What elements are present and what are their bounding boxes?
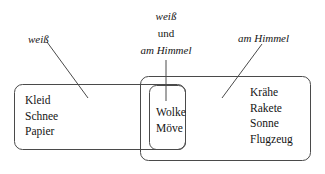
list-item: Kleid: [25, 93, 58, 109]
member-list-am-himmel-only: Krähe Rakete Sonne Flugzeug: [250, 85, 293, 147]
intersection-label-conjunction: und: [126, 25, 206, 42]
leader-line-weiss: [47, 42, 88, 98]
list-item: Schnee: [25, 109, 58, 125]
list-item: Krähe: [250, 85, 293, 101]
list-item: Flugzeug: [250, 132, 293, 148]
set-label-weiss: weiß: [28, 33, 49, 45]
intersection-label-line-2: am Himmel: [126, 42, 206, 59]
list-item: Rakete: [250, 101, 293, 117]
set-label-am-himmel: am Himmel: [238, 32, 289, 44]
intersection-label-line-1: weiß: [126, 8, 206, 25]
list-item: Papier: [25, 124, 58, 140]
venn-diagram-canvas: weiß weiß und am Himmel am Himmel Kleid …: [0, 0, 325, 174]
member-list-weiss-only: Kleid Schnee Papier: [25, 93, 58, 140]
list-item: Wolke: [156, 105, 186, 121]
list-item: Möve: [156, 121, 186, 137]
set-label-intersection: weiß und am Himmel: [126, 8, 206, 59]
member-list-intersection: Wolke Möve: [156, 105, 186, 136]
list-item: Sonne: [250, 116, 293, 132]
